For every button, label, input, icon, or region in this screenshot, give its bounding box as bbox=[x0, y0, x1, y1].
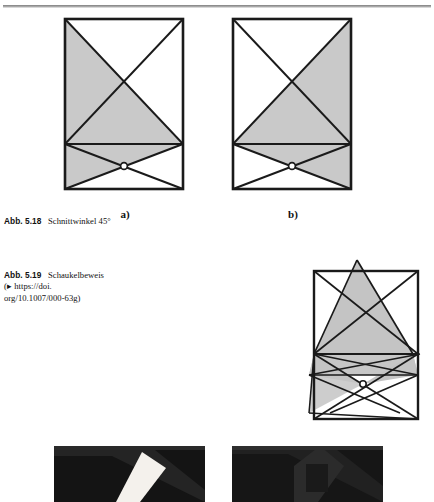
figure-5-19-caption-doi-line1[interactable]: (▸ https://doi. bbox=[4, 281, 154, 292]
photo-left bbox=[54, 446, 205, 502]
figure-5-18-panel-a bbox=[62, 14, 186, 196]
intersection-point-marker bbox=[360, 381, 366, 387]
figure-5-19-caption: Abb. 5.19 Schaukelbeweis (▸ https://doi.… bbox=[4, 270, 154, 304]
intersection-point-marker bbox=[121, 163, 128, 170]
figure-5-18-caption-lead: Abb. 5.18 bbox=[4, 216, 41, 226]
figure-5-19-caption-lead: Abb. 5.19 bbox=[4, 270, 41, 280]
intersection-point-marker bbox=[289, 163, 296, 170]
figure-5-19-caption-doi-line2[interactable]: org/10.1007/000-63g) bbox=[4, 293, 154, 304]
figure-5-18-caption: Abb. 5.18 Schnittwinkel 45° bbox=[4, 216, 224, 227]
photo-strip bbox=[0, 446, 434, 502]
photo-right bbox=[232, 446, 383, 502]
figure-5-19-caption-text: Schaukelbeweis bbox=[48, 270, 104, 280]
figure-5-18-panel-b bbox=[230, 14, 354, 196]
page-root: a) b) Abb. 5.18 Schnittwinkel 45° Abb. 5… bbox=[0, 0, 434, 502]
figure-5-18: a) b) bbox=[0, 14, 434, 196]
figure-5-18-caption-text: Schnittwinkel 45° bbox=[48, 216, 111, 226]
header-rule-shadow bbox=[3, 7, 431, 8]
figure-5-19-diagram bbox=[300, 258, 434, 434]
panel-label-b: b) bbox=[273, 208, 313, 220]
